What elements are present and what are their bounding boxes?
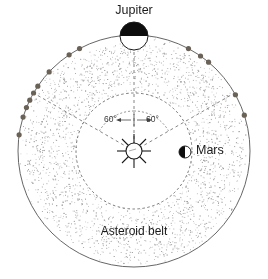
- trojan-asteroid-dot: [47, 69, 52, 74]
- angle-arrow-left: [116, 118, 131, 122]
- trojan-asteroid-dot: [77, 46, 82, 51]
- trojan-asteroid-dot: [242, 113, 247, 118]
- diagram-canvas: Jupiter Mars Asteroid belt 60° 60°: [0, 0, 268, 279]
- trojan-asteroid-dot: [27, 98, 32, 103]
- angle-left-label: 60°: [104, 114, 117, 124]
- trojan-asteroid-dot: [233, 92, 238, 97]
- jupiter-symbol: [120, 22, 148, 50]
- trojan-asteroid-dot: [186, 46, 191, 51]
- trojan-asteroid-dot: [24, 105, 29, 110]
- trojan-asteroid-dot: [17, 132, 22, 137]
- angle-right-label: 60°: [146, 114, 159, 124]
- mars-symbol: [179, 146, 191, 158]
- trojan-asteroid-dot: [206, 60, 211, 65]
- asteroid-belt-label: Asteroid belt: [0, 225, 268, 237]
- jupiter-label: Jupiter: [0, 4, 268, 17]
- trojan-asteroid-dot: [31, 90, 36, 95]
- trojan-asteroid-dot: [198, 53, 203, 58]
- sun-symbol: [117, 134, 151, 168]
- mars-label: Mars: [196, 144, 224, 157]
- trojan-asteroid-dot: [67, 52, 72, 57]
- trojan-asteroid-dot: [20, 114, 25, 119]
- trojan-asteroid-dot: [35, 84, 40, 89]
